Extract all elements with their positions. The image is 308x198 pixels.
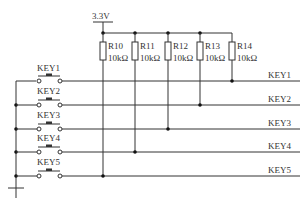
switch-key4: KEY4 KEY4 (16, 133, 300, 154)
switch-contact (58, 79, 62, 83)
resistor-ref: R11 (140, 41, 155, 51)
resistor-value: 10kΩ (140, 53, 161, 63)
power-supply: 3.3V (92, 11, 232, 35)
resistor-value: 10kΩ (108, 53, 129, 63)
resistor-r13: R13 10kΩ (197, 33, 226, 105)
switch-label: KEY4 (37, 133, 60, 143)
switch-contact (58, 150, 62, 154)
junction-dot (198, 103, 202, 107)
resistor-r11: R11 10kΩ (132, 33, 161, 152)
switch-label: KEY1 (37, 63, 60, 73)
switch-label: KEY2 (37, 86, 60, 96)
switch-label: KEY3 (37, 110, 60, 120)
junction-dot (101, 174, 105, 178)
switch-key2: KEY2 KEY2 (16, 86, 300, 107)
power-label: 3.3V (92, 11, 110, 21)
net-label: KEY5 (268, 165, 291, 175)
switch-contact (58, 103, 62, 107)
ground-bus (8, 81, 36, 198)
net-label: KEY1 (268, 70, 291, 80)
switch-label: KEY5 (37, 157, 60, 167)
switch-contact (37, 174, 41, 178)
switch-contact (58, 174, 62, 178)
switch-contact (37, 79, 41, 83)
resistor-body (197, 42, 203, 60)
junction-dot (133, 150, 137, 154)
resistor-body (165, 42, 171, 60)
resistor-body (100, 42, 106, 60)
resistor-ref: R13 (205, 41, 221, 51)
resistor-ref: R10 (108, 41, 124, 51)
junction-dot (230, 79, 234, 83)
switch-contact (37, 150, 41, 154)
net-label: KEY2 (268, 94, 291, 104)
resistor-body (132, 42, 138, 60)
switch-contact (58, 127, 62, 131)
switch-contact (37, 103, 41, 107)
switch-key5: KEY5 KEY5 (16, 157, 300, 178)
net-label: KEY4 (268, 141, 291, 151)
resistor-ref: R14 (237, 41, 253, 51)
junction-dot (166, 127, 170, 131)
resistor-value: 10kΩ (237, 53, 258, 63)
switch-contact (37, 127, 41, 131)
resistor-body (229, 42, 235, 60)
resistor-r14: R14 10kΩ (229, 33, 258, 81)
resistor-value: 10kΩ (173, 53, 194, 63)
resistor-ref: R12 (173, 41, 188, 51)
key-pullup-schematic: 3.3V R10 10kΩ R11 10kΩ R12 10kΩ R13 10kΩ (0, 0, 308, 198)
resistor-value: 10kΩ (205, 53, 226, 63)
net-label: KEY3 (268, 118, 291, 128)
switch-key3: KEY3 KEY3 (16, 110, 300, 131)
